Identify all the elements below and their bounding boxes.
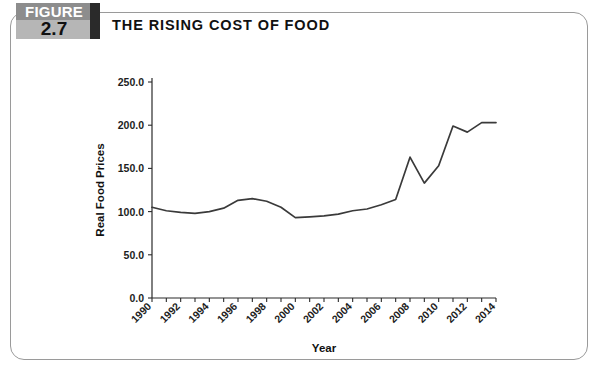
badge-accent-tab <box>90 3 100 39</box>
chart-title: THE RISING COST OF FOOD <box>112 17 330 33</box>
figure-frame <box>10 12 588 360</box>
figure-number-badge: FIGURE 2.7 <box>16 3 100 39</box>
figure-number: 2.7 <box>18 19 90 39</box>
